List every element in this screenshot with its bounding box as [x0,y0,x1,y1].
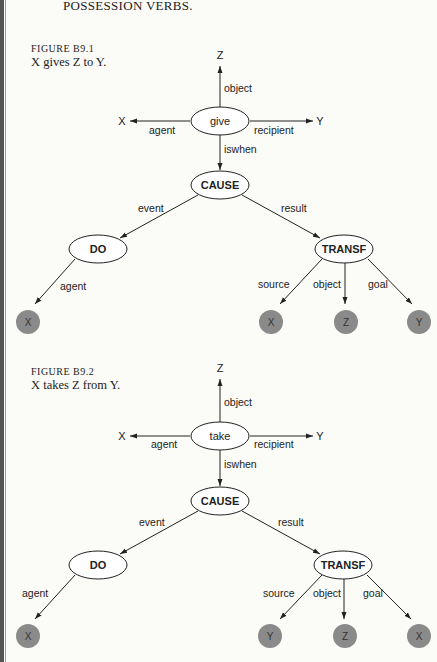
fig2-transf-label: TRANSF [321,559,366,571]
fig2-left-x: X [118,430,126,442]
figure-1-diagram: Z object give X agent Y recipient iswhen… [16,49,431,334]
fig2-top-z: Z [217,362,224,374]
fig2-goal-label: goal [363,587,383,599]
fig2-leaf-object-label: Z [342,631,348,642]
fig1-object-label: object [224,82,252,94]
fig2-take-label: take [210,430,231,442]
fig1-right-y: Y [316,115,324,127]
fig2-recipient-label: recipient [254,438,294,450]
fig1-agent-label: agent [149,124,175,136]
fig2-event-label: event [139,516,165,528]
fig1-source-label: source [258,278,290,290]
fig1-object2-label: object [313,278,341,290]
fig2-do-agent-label: agent [22,587,48,599]
fig2-object2-label: object [313,587,341,599]
fig2-iswhen-label: iswhen [224,458,257,470]
fig1-leaf-source-label: X [268,317,275,328]
fig2-agent-label: agent [151,438,177,450]
fig1-give-label: give [210,115,230,127]
figure-2-diagram: Z object take X agent Y recipient iswhen… [16,362,431,648]
fig2-source-label: source [263,587,295,599]
fig1-left-x: X [118,115,126,127]
fig2-cause-label: CAUSE [201,495,240,507]
fig1-leaf-object-label: Z [343,317,349,328]
fig1-iswhen-label: iswhen [224,143,257,155]
fig1-top-z: Z [217,49,224,61]
fig1-leaf-goal-label: Y [416,317,423,328]
fig1-recipient-label: recipient [254,124,294,136]
fig2-leaf-source-label: Y [267,631,274,642]
fig1-leaf-x-agent-label: X [25,317,32,328]
fig2-do-label: DO [90,559,107,571]
fig2-right-y: Y [316,430,324,442]
fig1-do-agent-label: agent [60,280,86,292]
fig1-goal-label: goal [368,278,388,290]
fig1-cause-label: CAUSE [201,179,240,191]
fig2-leaf-goal-label: X [416,631,423,642]
fig1-event-label: event [138,202,164,214]
fig2-leaf-x-agent-label: X [25,631,32,642]
diagrams: Z object give X agent Y recipient iswhen… [0,0,437,662]
fig1-do-label: DO [90,243,107,255]
fig1-result-label: result [281,202,307,214]
fig2-object-label: object [224,396,252,408]
fig1-transf-label: TRANSF [322,243,367,255]
fig2-result-label: result [278,516,304,528]
